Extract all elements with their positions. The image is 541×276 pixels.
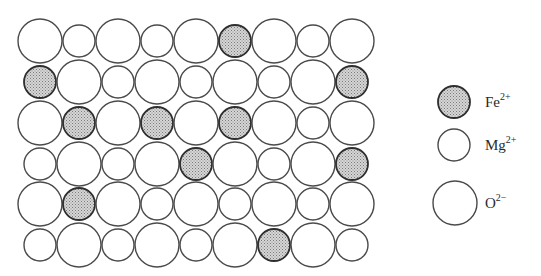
oxygen-ion-circle <box>330 182 374 226</box>
oxygen-ion-circle <box>18 19 62 63</box>
ion-lattice-grid <box>18 19 374 267</box>
oxygen-ion-circle <box>135 223 179 267</box>
oxygen-ion-circle <box>291 223 335 267</box>
legend-label-o: O2− <box>485 196 506 211</box>
oxygen-ion-circle <box>291 60 335 104</box>
ion-symbol: Fe <box>485 94 500 110</box>
oxygen-ion-circle <box>174 101 218 145</box>
mg-ion-circle <box>180 66 212 98</box>
oxygen-ion-circle <box>252 182 296 226</box>
oxygen-ion-circle <box>135 142 179 186</box>
mg-ion-circle <box>141 188 173 220</box>
ion-charge: 2+ <box>506 134 517 145</box>
fe-ion-circle <box>63 188 95 220</box>
oxygen-ion-circle <box>291 142 335 186</box>
oxygen-ion-circle <box>330 101 374 145</box>
ion-symbol: O <box>485 195 496 211</box>
fe-ion-circle <box>219 25 251 57</box>
fe-ion-circle <box>336 66 368 98</box>
fe-ion-circle <box>24 66 56 98</box>
ion-charge: 2− <box>496 192 507 203</box>
mg-ion-circle <box>219 188 251 220</box>
mg-ion-circle <box>141 25 173 57</box>
ion-symbol: Mg <box>485 137 506 153</box>
oxygen-ion-circle <box>57 60 101 104</box>
mg-ion-circle <box>180 229 212 261</box>
legend-symbols <box>433 86 477 225</box>
oxygen-ion-circle <box>18 101 62 145</box>
legend-label-fe: Fe2+ <box>485 95 511 110</box>
fe-ion-circle <box>141 107 173 139</box>
fe-ion-circle <box>219 107 251 139</box>
fe-ion-circle <box>336 148 368 180</box>
mg-ion-circle <box>24 148 56 180</box>
oxygen-ion-circle <box>252 19 296 63</box>
mg-ion-circle <box>63 25 95 57</box>
mg-ion-circle <box>24 229 56 261</box>
oxygen-ion-circle <box>96 19 140 63</box>
oxygen-ion-circle <box>57 223 101 267</box>
oxygen-ion-circle <box>174 19 218 63</box>
oxygen-ion-circle <box>330 19 374 63</box>
mg-ion-circle <box>297 25 329 57</box>
oxygen-ion-circle <box>96 182 140 226</box>
legend-mg-icon <box>438 129 470 161</box>
mg-ion-circle <box>336 229 368 261</box>
legend-fe-icon <box>438 86 470 118</box>
fe-ion-circle <box>180 148 212 180</box>
oxygen-ion-circle <box>213 60 257 104</box>
mg-ion-circle <box>102 66 134 98</box>
mg-ion-circle <box>102 148 134 180</box>
oxygen-ion-circle <box>18 182 62 226</box>
oxygen-ion-circle <box>213 223 257 267</box>
mg-ion-circle <box>102 229 134 261</box>
legend-label-mg: Mg2+ <box>485 138 516 153</box>
ion-charge: 2+ <box>500 91 511 102</box>
mg-ion-circle <box>297 188 329 220</box>
oxygen-ion-circle <box>252 101 296 145</box>
oxygen-ion-circle <box>57 142 101 186</box>
oxygen-ion-circle <box>96 101 140 145</box>
mg-ion-circle <box>297 107 329 139</box>
mg-ion-circle <box>258 148 290 180</box>
mg-ion-circle <box>258 66 290 98</box>
oxygen-ion-circle <box>213 142 257 186</box>
legend-o-icon <box>433 181 477 225</box>
lattice-diagram <box>0 0 541 276</box>
oxygen-ion-circle <box>174 182 218 226</box>
oxygen-ion-circle <box>135 60 179 104</box>
fe-ion-circle <box>258 229 290 261</box>
fe-ion-circle <box>63 107 95 139</box>
